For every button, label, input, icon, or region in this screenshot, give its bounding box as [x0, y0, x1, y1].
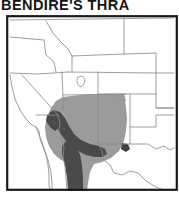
map-container: [6, 15, 178, 191]
range-map-figure: BENDIRE'S THRA: [0, 0, 179, 201]
page-title: BENDIRE'S THRA: [1, 0, 130, 12]
range-map-svg: [6, 15, 178, 191]
figure-title-bar: BENDIRE'S THRA: [0, 0, 179, 12]
